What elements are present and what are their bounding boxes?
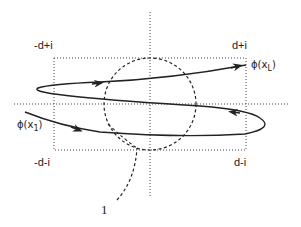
- top-right-corner-label: d+i: [232, 39, 247, 51]
- bottom-right-corner-label: d-i: [234, 156, 246, 168]
- circle-pointer: [117, 148, 137, 200]
- bottom-left-corner-label: -d-i: [34, 156, 50, 168]
- end-point-suffix: ): [272, 59, 276, 70]
- diagram-canvas: [0, 0, 301, 227]
- contour-diagram: -d+i d+i -d-i d-i ϕ(xL) ϕ(x1) 1: [0, 0, 301, 227]
- end-point-label: ϕ(xL): [251, 59, 276, 73]
- end-point-prefix: ϕ(x: [251, 59, 267, 70]
- start-point-label: ϕ(x1): [17, 119, 42, 133]
- start-point-suffix: ): [39, 119, 43, 130]
- top-left-corner-label: -d+i: [34, 39, 53, 51]
- arrow-icon: [231, 66, 239, 68]
- arrow-icon: [92, 83, 100, 84]
- circle-label: 1: [101, 202, 108, 218]
- start-point-prefix: ϕ(x: [17, 119, 33, 130]
- arrow-icon: [232, 112, 240, 113]
- spiral-path: [25, 65, 265, 136]
- inner-dashed-curve: [108, 124, 137, 148]
